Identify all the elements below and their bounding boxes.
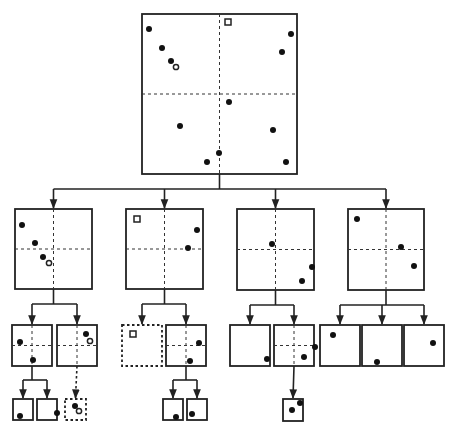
node-box <box>13 399 33 420</box>
data-point <box>146 26 152 32</box>
data-point <box>354 216 360 222</box>
quadtree-node-n2 <box>126 209 203 289</box>
quadtree-node-n321 <box>283 399 303 421</box>
data-point <box>189 411 195 417</box>
quadtree-node-n3 <box>237 209 315 290</box>
node-box <box>65 399 86 420</box>
data-point <box>301 354 307 360</box>
data-point <box>264 356 270 362</box>
data-point <box>279 49 285 55</box>
quadtree-node-n12 <box>57 325 97 366</box>
edge-group-n22 <box>173 366 197 398</box>
data-point <box>187 358 193 364</box>
edge-group-n32 <box>293 366 294 398</box>
edge-group-root <box>54 174 387 208</box>
data-point <box>177 123 183 129</box>
data-point <box>19 222 25 228</box>
data-point <box>270 127 276 133</box>
edge-group-n12 <box>76 366 78 398</box>
data-point <box>17 339 23 345</box>
edge-group-n4 <box>340 290 424 324</box>
data-point <box>54 410 60 416</box>
data-point <box>299 278 305 284</box>
edge-group-n3 <box>250 290 294 324</box>
tree-nodes <box>12 14 444 421</box>
quadtree-node-n11 <box>12 325 52 366</box>
data-point <box>168 58 174 64</box>
node-box <box>404 325 444 366</box>
quadtree-node-n121 <box>65 399 86 420</box>
data-point <box>72 403 78 409</box>
data-point <box>173 414 179 420</box>
data-point <box>216 150 222 156</box>
data-point <box>297 400 303 406</box>
query-point-ring <box>173 64 178 69</box>
data-point <box>17 413 23 419</box>
edge-group-n1 <box>32 289 77 324</box>
data-point <box>283 159 289 165</box>
data-point <box>374 359 380 365</box>
edge-group-n2 <box>142 289 186 324</box>
data-point <box>32 240 38 246</box>
quadtree-node-n31 <box>230 325 270 366</box>
quadtree-node-n221 <box>163 399 183 420</box>
edge-arrow <box>76 366 78 398</box>
quadtree-node-n111 <box>13 399 33 420</box>
data-point <box>430 340 436 346</box>
query-point-ring <box>76 408 81 413</box>
data-point <box>196 340 202 346</box>
quadtree-diagram <box>0 0 457 432</box>
node-box <box>122 325 162 366</box>
quadtree-node-n42 <box>362 325 402 366</box>
data-point <box>411 263 417 269</box>
quadtree-node-root <box>142 14 297 174</box>
edge-arrow <box>293 366 294 398</box>
data-point <box>289 407 295 413</box>
quadtree-node-n41 <box>320 325 360 366</box>
quadtree-node-n112 <box>37 399 60 420</box>
data-point <box>309 264 315 270</box>
node-box <box>163 399 183 420</box>
quadtree-node-n43 <box>404 325 444 366</box>
quadtree-node-n4 <box>348 209 424 290</box>
query-point-square <box>130 331 136 337</box>
quadtree-node-n22 <box>166 325 206 366</box>
data-point <box>398 244 404 250</box>
data-point <box>30 357 36 363</box>
data-point <box>185 245 191 251</box>
node-box <box>362 325 402 366</box>
data-point <box>312 344 318 350</box>
data-point <box>40 254 46 260</box>
node-box <box>37 399 57 420</box>
edge-group-n11 <box>23 366 47 398</box>
query-point-square <box>225 19 231 25</box>
query-point-square <box>134 216 140 222</box>
quadtree-node-n32 <box>274 325 318 366</box>
data-point <box>194 227 200 233</box>
query-point-ring <box>87 338 92 343</box>
quadtree-node-n222 <box>187 399 207 420</box>
quadtree-node-n21 <box>122 325 162 366</box>
node-box <box>230 325 270 366</box>
node-box <box>187 399 207 420</box>
data-point <box>226 99 232 105</box>
data-point <box>159 45 165 51</box>
query-point-ring <box>46 260 51 265</box>
data-point <box>330 332 336 338</box>
node-box <box>320 325 360 366</box>
data-point <box>204 159 210 165</box>
data-point <box>83 331 89 337</box>
data-point <box>269 241 275 247</box>
data-point <box>288 31 294 37</box>
quadtree-node-n1 <box>15 209 92 289</box>
